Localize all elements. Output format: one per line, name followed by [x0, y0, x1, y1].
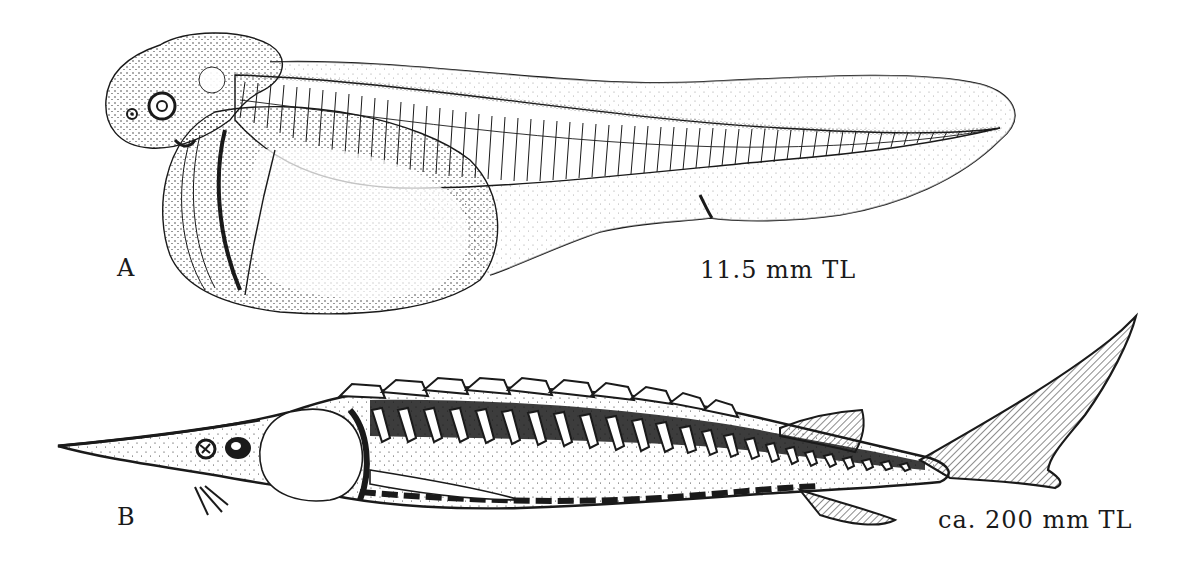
panel-label-b: B: [117, 503, 136, 531]
panel-a-size-label: 11.5 mm TL: [700, 256, 856, 284]
larva-drawing: [106, 33, 1015, 314]
figure: A 11.5 mm TL B ca. 200 mm TL: [0, 0, 1199, 565]
sturgeon-caudal-fin: [920, 316, 1136, 488]
sturgeon-pelvic-fin: [800, 490, 895, 525]
figure-artwork: [0, 0, 1199, 565]
sturgeon-head: [260, 409, 363, 501]
panel-b-size-label: ca. 200 mm TL: [938, 506, 1133, 534]
sturgeon-barbels: [195, 486, 228, 515]
panel-label-a: A: [117, 254, 135, 282]
sturgeon-drawing: [58, 316, 1136, 525]
